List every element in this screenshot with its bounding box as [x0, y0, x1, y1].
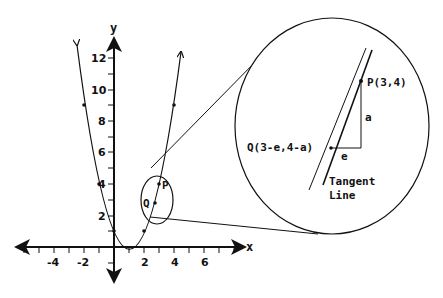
x-axis: -4 -2 2 4 6 x	[18, 240, 253, 269]
y-axis-label: y	[110, 21, 117, 35]
y-axis: 2 4 6 8 10 12 y	[91, 21, 117, 280]
run-label: e	[341, 150, 348, 163]
y-tick-8: 8	[98, 115, 106, 128]
tangent-label-line2: Line	[329, 189, 356, 202]
point-p-dot	[157, 182, 161, 186]
x-tick-6: 6	[201, 256, 209, 269]
zoom-region-small: P Q	[141, 176, 173, 224]
zoom-region-large: P(3,4) Q(3-e,4-a) a e Tangent Line	[235, 18, 429, 234]
y-tick-10: 10	[91, 84, 107, 97]
rise-label: a	[365, 111, 372, 124]
y-tick-2: 2	[98, 210, 106, 223]
point-q-label: Q	[143, 197, 150, 210]
zoom-point-q-label: Q(3-e,4-a)	[247, 141, 313, 154]
zoom-point-q-dot	[329, 146, 333, 150]
point-p-label: P	[162, 179, 169, 192]
x-tick-4: 4	[171, 256, 179, 269]
y-tick-12: 12	[91, 52, 106, 65]
zoom-point-p-dot	[359, 79, 363, 83]
tangent-diagram: -4 -2 2 4 6 x 2 4 6 8 10 12 y	[0, 0, 443, 298]
x-tick-2: 2	[141, 256, 149, 269]
x-tick--2: -2	[77, 256, 89, 269]
tangent-label-line1: Tangent	[329, 175, 375, 188]
zoom-point-p-label: P(3,4)	[367, 76, 407, 89]
x-axis-label: x	[246, 240, 253, 254]
x-tick--4: -4	[47, 256, 60, 269]
point-q-dot	[153, 201, 157, 205]
y-tick-6: 6	[98, 146, 106, 159]
